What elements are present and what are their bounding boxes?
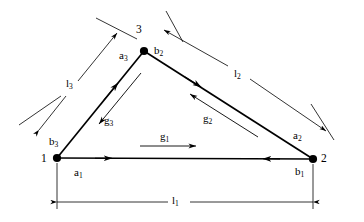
segment-label-b2-base: b [154, 44, 160, 56]
side-direction-arrows [95, 77, 280, 159]
dimension-l3 [19, 18, 137, 130]
vector-label-g3: g3 [104, 115, 113, 126]
dimension-label-l3: l3 [66, 78, 73, 89]
vector-label-g2-sub: 2 [209, 117, 213, 126]
dim-line-l3-upper [78, 33, 117, 81]
segment-label-b3-base: b [49, 135, 55, 147]
geometry-figure: 1 2 3 a1 b1 a2 b2 a3 b3 g1 g2 g3 l1 l2 l… [0, 0, 364, 222]
vector-label-g2-base: g [203, 112, 209, 124]
segment-label-b3-sub: 3 [55, 140, 59, 149]
dimension-l1 [57, 163, 313, 209]
vector-label-g2: g2 [203, 113, 212, 124]
vector-label-g3-sub: 3 [110, 119, 114, 128]
segment-label-a3: a3 [119, 50, 128, 61]
segment-label-a1: a1 [74, 167, 83, 178]
dimension-l2 [164, 11, 334, 140]
dim-line-l2-upper [164, 30, 228, 66]
ext-line-l3-upper [96, 18, 137, 39]
segment-label-b3: b3 [49, 136, 58, 147]
vector-label-g3-base: g [104, 114, 110, 126]
segment-label-a2: a2 [293, 130, 302, 141]
ext-line-l2-lower [311, 104, 334, 140]
vertex-label-2: 2 [321, 153, 327, 165]
segment-label-b1: b1 [295, 166, 304, 177]
segment-label-a3-sub: 3 [124, 54, 128, 63]
vector-label-g1-base: g [160, 130, 166, 142]
segment-label-a1-sub: 1 [79, 171, 83, 180]
segment-label-b2-sub: 2 [160, 49, 164, 58]
dim-line-l2-lower [250, 79, 326, 131]
dimension-label-l2-sub: 2 [237, 72, 241, 81]
dim-line-l3-lower [39, 96, 66, 130]
vertex-dot-3 [140, 47, 148, 55]
vertex-label-3: 3 [136, 24, 142, 36]
side-arrow-left-up [104, 83, 118, 100]
segment-label-b1-base: b [295, 165, 301, 177]
vertex-dot-2 [309, 155, 317, 163]
dimension-label-l1: l1 [172, 195, 179, 206]
dimension-label-l3-sub: 3 [69, 82, 73, 91]
ext-line-l2-upper [166, 11, 183, 42]
segment-label-b1-sub: 1 [301, 170, 305, 179]
segment-label-a2-sub: 2 [298, 134, 302, 143]
side-arrow-right-down [185, 77, 201, 87]
vertex-label-1: 1 [41, 153, 47, 165]
vector-g2 [190, 94, 258, 137]
vector-label-g1-sub: 1 [166, 135, 170, 144]
triangle-sides [57, 51, 313, 159]
figure-canvas [0, 0, 364, 222]
segment-label-b2: b2 [154, 45, 163, 56]
dimension-label-l2: l2 [234, 68, 241, 79]
vertex-dot-1 [53, 154, 61, 162]
side-left-1-3 [57, 51, 144, 158]
vector-label-g1: g1 [160, 131, 169, 142]
dimension-label-l1-sub: 1 [175, 199, 179, 208]
